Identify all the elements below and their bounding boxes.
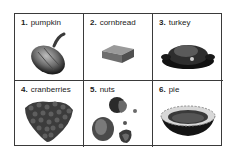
cornbread-icon <box>84 30 152 78</box>
cell-label: 3.turkey <box>159 18 190 27</box>
cell-label: 5.nuts <box>90 85 115 94</box>
cell-label: 2.cornbread <box>90 18 136 27</box>
cranberries-icon <box>15 97 83 145</box>
item-label: nuts <box>100 85 115 94</box>
grid-cell-cranberries: 4.cranberries <box>15 81 84 147</box>
item-number: 2. <box>90 18 97 27</box>
item-number: 6. <box>159 85 166 94</box>
grid-cell-pie: 6.pie <box>153 81 223 147</box>
pumpkin-icon <box>15 30 83 78</box>
pie-icon <box>153 97 223 145</box>
cell-label: 4.cranberries <box>21 85 71 94</box>
item-number: 3. <box>159 18 166 27</box>
item-label: cornbread <box>100 18 136 27</box>
item-number: 1. <box>21 18 28 27</box>
grid-cell-nuts: 5.nuts <box>84 81 153 147</box>
item-label: cranberries <box>31 85 71 94</box>
cell-label: 6.pie <box>159 85 179 94</box>
nuts-icon <box>84 97 152 145</box>
turkey-icon <box>153 30 223 78</box>
grid-cell-pumpkin: 1.pumpkin <box>15 14 84 81</box>
item-number: 4. <box>21 85 28 94</box>
item-number: 5. <box>90 85 97 94</box>
grid-cell-cornbread: 2.cornbread <box>84 14 153 81</box>
item-label: turkey <box>169 18 191 27</box>
cell-label: 1.pumpkin <box>21 18 61 27</box>
item-label: pie <box>169 85 180 94</box>
item-label: pumpkin <box>31 18 61 27</box>
grid-cell-turkey: 3.turkey <box>153 14 223 81</box>
vocabulary-grid: 1.pumpkin 2.cornbread <box>14 13 222 146</box>
